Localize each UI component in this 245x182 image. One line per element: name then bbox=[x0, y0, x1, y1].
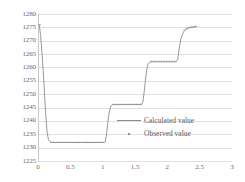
series-marker bbox=[68, 142, 69, 143]
series-marker bbox=[138, 104, 139, 105]
y-axis-tick-label: 1240 bbox=[4, 117, 36, 124]
series-marker bbox=[158, 61, 159, 62]
legend-item-observed-value: Observed value bbox=[116, 127, 212, 140]
y-axis-tick-label: 1265 bbox=[4, 51, 36, 58]
y-axis-tick-label: 1270 bbox=[4, 37, 36, 44]
y-axis-tick-label: 1275 bbox=[4, 24, 36, 31]
x-axis-tick-label: 2 bbox=[166, 163, 170, 171]
legend-label-observed-value: Observed value bbox=[142, 129, 191, 139]
series-marker bbox=[123, 104, 124, 105]
series-marker bbox=[84, 142, 85, 143]
series-marker bbox=[156, 61, 157, 62]
y-axis-tick-labels: 1280127512701265126012551250124512401235… bbox=[0, 14, 36, 161]
y-axis-tick-label: 1245 bbox=[4, 104, 36, 111]
series-marker bbox=[166, 61, 167, 62]
series-marker bbox=[71, 142, 72, 143]
y-axis-tick-label: 1235 bbox=[4, 131, 36, 138]
series-marker bbox=[151, 61, 152, 62]
series-marker bbox=[174, 61, 175, 62]
series-marker bbox=[66, 142, 67, 143]
series-marker bbox=[131, 104, 132, 105]
legend-item-calculated-value: Calculated value bbox=[116, 114, 212, 127]
series-marker bbox=[74, 142, 75, 143]
y-axis-tick-label: 1230 bbox=[4, 144, 36, 151]
series-marker bbox=[53, 142, 54, 143]
x-axis-tick-label: 0.5 bbox=[66, 163, 75, 171]
chart-container: 1280127512701265126012551250124512401235… bbox=[0, 0, 245, 182]
x-axis-tick-labels: 00.511.522.53 bbox=[38, 163, 232, 177]
series-marker bbox=[136, 104, 137, 105]
legend-line-icon bbox=[116, 120, 142, 121]
y-axis-tick-label: 1280 bbox=[4, 11, 36, 18]
y-axis-tick-label: 1260 bbox=[4, 64, 36, 71]
series-marker bbox=[118, 104, 119, 105]
x-axis-tick-label: 3 bbox=[230, 163, 234, 171]
series-marker bbox=[58, 142, 59, 143]
series-marker bbox=[76, 142, 77, 143]
series-marker bbox=[195, 26, 196, 27]
series-marker bbox=[169, 61, 170, 62]
series-marker bbox=[185, 28, 186, 29]
series-marker bbox=[153, 61, 154, 62]
series-marker bbox=[164, 61, 165, 62]
series-marker bbox=[63, 142, 64, 143]
series-marker bbox=[189, 27, 190, 28]
series-marker bbox=[56, 142, 57, 143]
series-marker bbox=[171, 61, 172, 62]
series-marker bbox=[50, 142, 51, 143]
series-marker bbox=[125, 104, 126, 105]
series-marker bbox=[187, 27, 188, 28]
series-marker bbox=[102, 142, 103, 143]
series-marker bbox=[99, 142, 100, 143]
series-marker bbox=[39, 24, 40, 25]
series-marker bbox=[120, 104, 121, 105]
series-marker bbox=[92, 142, 93, 143]
series-marker bbox=[89, 142, 90, 143]
series-marker bbox=[87, 142, 88, 143]
series-marker bbox=[140, 104, 141, 105]
legend-label-calculated-value: Calculated value bbox=[142, 116, 194, 126]
y-axis-tick-label: 1225 bbox=[4, 158, 36, 165]
series-marker bbox=[115, 104, 116, 105]
x-axis-tick-label: 1 bbox=[101, 163, 105, 171]
series-marker bbox=[97, 142, 98, 143]
series-marker bbox=[79, 142, 80, 143]
series-marker bbox=[128, 104, 129, 105]
series-marker bbox=[184, 30, 185, 31]
y-axis-tick-label: 1250 bbox=[4, 91, 36, 98]
x-axis-tick-label: 1.5 bbox=[131, 163, 140, 171]
series-marker bbox=[133, 104, 134, 105]
x-axis-tick-label: 2.5 bbox=[195, 163, 204, 171]
series-marker bbox=[94, 142, 95, 143]
chart-legend: Calculated value Observed value bbox=[116, 114, 212, 140]
x-axis-tick-label: 0 bbox=[36, 163, 40, 171]
series-marker bbox=[161, 61, 162, 62]
series-marker bbox=[191, 26, 192, 27]
series-marker bbox=[193, 26, 194, 27]
gridline bbox=[38, 161, 232, 162]
series-marker bbox=[81, 142, 82, 143]
y-axis-tick-label: 1255 bbox=[4, 77, 36, 84]
series-marker bbox=[112, 104, 113, 105]
series-marker bbox=[61, 142, 62, 143]
legend-dot-icon bbox=[116, 133, 142, 135]
